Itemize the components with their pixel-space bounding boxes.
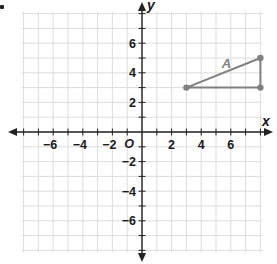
- vertex-point: [183, 84, 189, 90]
- vertex-point: [257, 55, 263, 61]
- x-tick-label: 4: [198, 138, 205, 152]
- y-axis-down-arrow-icon: [138, 253, 146, 262]
- y-tick-label: 4: [129, 66, 136, 80]
- coordinate-plane: −6−4−2246642−2−4−6OxyA: [0, 0, 277, 264]
- x-tick-label: −6: [43, 138, 57, 152]
- x-tick-label: 6: [227, 138, 234, 152]
- y-tick-label: −6: [122, 214, 136, 228]
- y-tick-label: 2: [129, 96, 136, 110]
- y-tick-label: −2: [122, 155, 136, 169]
- origin-label: O: [124, 137, 134, 151]
- vertex-point: [257, 84, 263, 90]
- x-axis-label: x: [261, 113, 271, 129]
- y-axis-up-arrow-icon: [138, 2, 146, 11]
- x-axis-right-arrow-icon: [264, 128, 273, 136]
- x-tick-label: 2: [168, 138, 175, 152]
- x-tick-label: −4: [73, 138, 87, 152]
- x-axis-left-arrow-icon: [8, 128, 17, 136]
- y-tick-label: 6: [129, 37, 136, 51]
- y-axis-label: y: [146, 0, 156, 13]
- x-tick-label: −2: [102, 138, 116, 152]
- shape-label: A: [221, 56, 231, 71]
- y-tick-label: −4: [122, 185, 136, 199]
